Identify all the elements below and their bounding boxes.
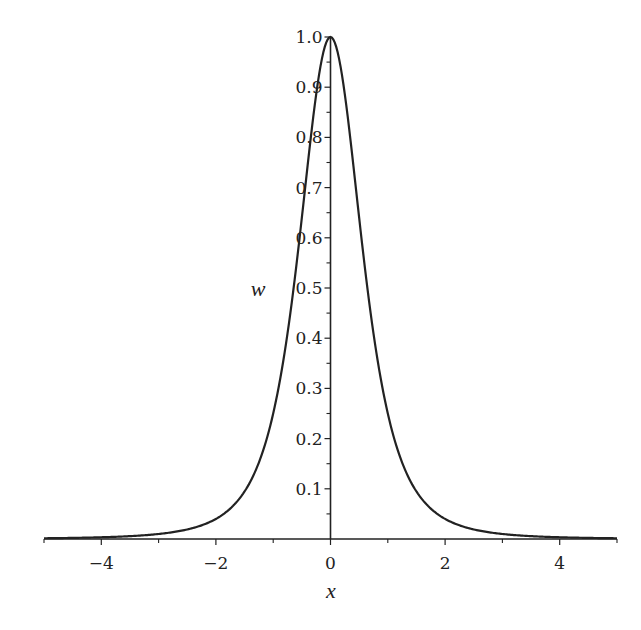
y-tick-label: 0.3 [295,378,322,398]
y-tick-label: 0.2 [295,429,322,449]
y-tick-label: 0.5 [295,278,322,298]
x-tick-label: 0 [325,553,336,573]
x-tick-label: 4 [554,553,565,573]
y-tick-label: 0.4 [295,328,322,348]
y-tick-label: 0.1 [295,479,322,499]
x-tick-label: −2 [203,553,228,573]
chart: −4−20240.10.20.30.40.50.60.70.80.91.0 w … [0,0,641,630]
y-axis-title: w [251,276,266,301]
x-axis-title: x [325,578,336,603]
y-tick-label: 1.0 [295,27,322,47]
axes: −4−20240.10.20.30.40.50.60.70.80.91.0 [44,27,617,573]
x-tick-label: 2 [440,553,451,573]
x-tick-label: −4 [89,553,114,573]
y-tick-label: 0.7 [295,178,322,198]
